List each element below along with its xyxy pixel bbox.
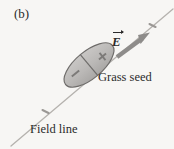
- panel-label: (b): [14, 7, 29, 20]
- vector-arrow-overbar: [113, 30, 124, 35]
- e-field-symbol: E: [112, 35, 124, 48]
- e-field-vector-label: E: [112, 30, 124, 48]
- field-line-label: Field line: [30, 123, 78, 136]
- grass-seed-label: Grass seed: [98, 71, 152, 84]
- field-line-tick-lower: [43, 110, 49, 113]
- physics-figure-panel-b: (b) E Grass seed Field line: [0, 0, 174, 149]
